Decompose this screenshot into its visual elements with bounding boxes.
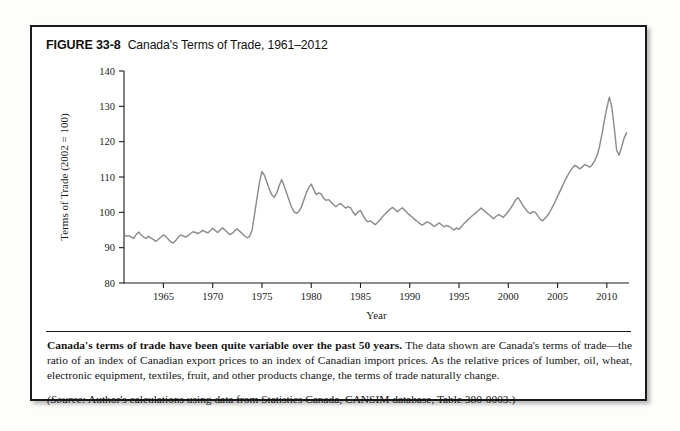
y-axis-ticks: 8090100110120130140 [99, 66, 124, 289]
y-axis-title: Terms of Trade (2002 = 100) [58, 113, 71, 241]
caption-block: Canada's terms of trade have been quite … [47, 338, 632, 407]
y-tick-label: 110 [100, 172, 115, 183]
x-tick-label: 1980 [301, 291, 322, 302]
y-tick-label: 130 [99, 101, 115, 112]
figure-box: FIGURE 33-8Canada's Terms of Trade, 1961… [30, 25, 647, 401]
x-axis-ticks: 1965197019751980198519901995200020052010 [153, 283, 617, 302]
x-tick-label: 1995 [449, 291, 470, 302]
y-tick-label: 80 [105, 278, 116, 289]
series-terms-of-trade [124, 97, 627, 243]
x-tick-label: 1990 [399, 291, 420, 302]
plot-axes [124, 71, 629, 283]
y-tick-label: 90 [105, 242, 116, 253]
source-label: (Source: [47, 393, 86, 405]
y-tick-label: 140 [99, 66, 115, 77]
x-tick-label: 2010 [596, 291, 617, 302]
x-axis-title: Year [366, 309, 387, 321]
x-tick-label: 1975 [251, 291, 272, 302]
caption-source: (Source: Author's calculations using dat… [47, 392, 632, 407]
x-tick-label: 1965 [153, 291, 174, 302]
caption-divider [46, 331, 631, 332]
caption-text: Canada's terms of trade have been quite … [47, 338, 632, 382]
x-tick-label: 2000 [498, 291, 519, 302]
figure-header: FIGURE 33-8Canada's Terms of Trade, 1961… [46, 35, 635, 57]
caption-lead: Canada's terms of trade have been quite … [47, 339, 402, 351]
figure-title: Canada's Terms of Trade, 1961–2012 [128, 38, 328, 52]
x-tick-label: 1970 [202, 291, 223, 302]
x-tick-label: 2005 [547, 291, 568, 302]
terms-of-trade-line-chart: 8090100110120130140 19651970197519801985… [32, 55, 645, 327]
y-tick-label: 100 [99, 207, 115, 218]
chart-area: 8090100110120130140 19651970197519801985… [32, 55, 645, 327]
page-canvas: FIGURE 33-8Canada's Terms of Trade, 1961… [0, 0, 680, 431]
figure-number: FIGURE 33-8 [46, 38, 121, 52]
source-text: Author's calculations using data from St… [86, 393, 515, 405]
x-tick-label: 1985 [350, 291, 371, 302]
y-tick-label: 120 [99, 136, 115, 147]
